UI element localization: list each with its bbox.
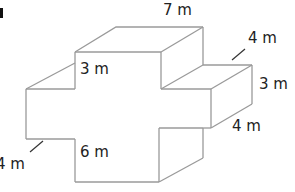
- label-right-height: 3 m: [259, 77, 288, 92]
- left-depth-leader: [30, 141, 43, 152]
- label-left-depth: 4 m: [0, 157, 25, 172]
- right-arm-top-face: [161, 65, 252, 89]
- label-right-arm-lower: 4 m: [232, 119, 261, 134]
- label-inner-bottom: 6 m: [80, 145, 109, 160]
- top-arm-top-face: [75, 27, 203, 52]
- right-depth-leader: [232, 49, 245, 60]
- cross-prism-diagram: 7 m 4 m 3 m 4 m 3 m 6 m 4 m: [0, 0, 295, 192]
- label-inner-top: 3 m: [80, 62, 109, 77]
- cropped-text-fragment: [0, 8, 3, 18]
- label-top-width: 7 m: [163, 3, 192, 18]
- label-right-depth: 4 m: [248, 31, 277, 46]
